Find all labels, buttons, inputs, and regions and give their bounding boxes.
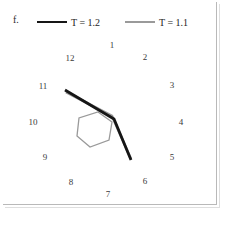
series-t-1-2 [65, 90, 131, 160]
series-hexagon-outline [77, 112, 112, 147]
figure-panel: f. T = 1.2 T = 1.1 123456789101112 [0, 0, 226, 226]
chart-plot-area [0, 0, 226, 226]
series-t-1-1 [66, 92, 131, 159]
